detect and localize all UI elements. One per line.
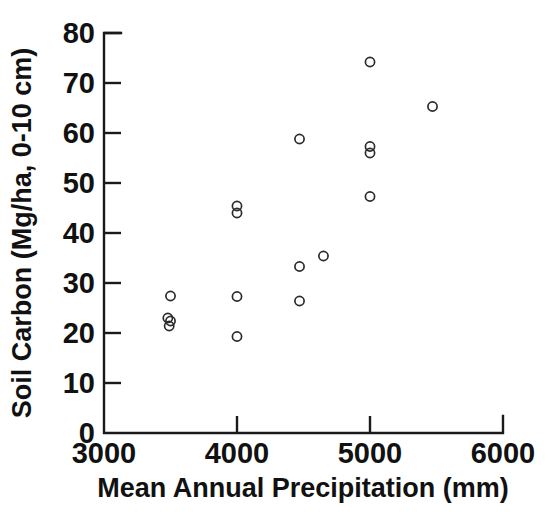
data-point-marker <box>295 262 304 271</box>
y-tick-label: 50 <box>63 167 95 199</box>
scatter-plot-figure: 01020304050607080 3000400050006000 Mean … <box>0 0 556 525</box>
y-axis-ticks <box>104 33 121 383</box>
y-tick-label: 60 <box>63 117 95 149</box>
y-tick-label: 40 <box>63 217 95 249</box>
x-tick-label: 4000 <box>205 437 270 469</box>
x-tick-label: 5000 <box>338 437 403 469</box>
x-axis-ticks <box>237 416 370 433</box>
data-point-series <box>163 57 437 341</box>
axis-frame <box>104 33 503 433</box>
y-tick-label: 70 <box>63 67 95 99</box>
axes-group <box>104 33 503 433</box>
y-tick-label: 30 <box>63 267 95 299</box>
data-point-marker <box>428 102 437 111</box>
y-axis-title: Soil Carbon (Mg/ha, 0-10 cm) <box>7 48 37 419</box>
data-point-marker <box>166 291 175 300</box>
data-point-marker <box>365 192 374 201</box>
data-point-marker <box>295 296 304 305</box>
data-point-marker <box>295 134 304 143</box>
y-axis-tick-labels: 01020304050607080 <box>63 17 95 449</box>
y-tick-label: 80 <box>63 17 95 49</box>
x-axis-title: Mean Annual Precipitation (mm) <box>97 473 509 503</box>
y-tick-label: 20 <box>63 317 95 349</box>
x-tick-label: 3000 <box>72 437 137 469</box>
plot-canvas: 01020304050607080 3000400050006000 Mean … <box>0 0 556 525</box>
data-point-marker <box>365 57 374 66</box>
x-tick-label: 6000 <box>471 437 536 469</box>
y-tick-label: 10 <box>63 367 95 399</box>
data-point-marker <box>232 332 241 341</box>
x-axis-tick-labels: 3000400050006000 <box>72 437 536 469</box>
data-point-marker <box>232 292 241 301</box>
data-point-marker <box>319 251 328 260</box>
data-point-marker <box>365 148 374 157</box>
